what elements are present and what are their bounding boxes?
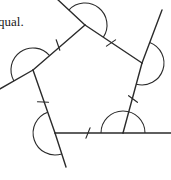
side-AB — [85, 25, 142, 63]
side-tick-marks — [38, 40, 138, 138]
extension-at-D — [55, 133, 66, 167]
pentagon-exterior-angles-diagram — [0, 0, 171, 180]
exterior-angle-arc-E — [11, 48, 50, 81]
extension-at-B — [142, 10, 162, 63]
figure-page: qual. — [0, 0, 171, 180]
exterior-angle-arc-C — [101, 111, 145, 133]
pentagon-sides — [0, 0, 171, 167]
exterior-angle-arcs — [11, 3, 164, 155]
exterior-angle-arc-A — [69, 3, 107, 37]
exterior-angle-arc-B — [136, 42, 164, 85]
extension-at-E — [0, 70, 33, 90]
